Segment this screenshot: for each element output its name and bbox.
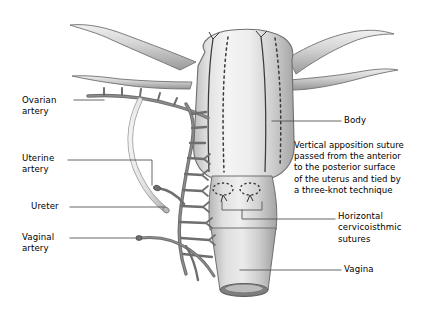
label-ureter: Ureter [31,201,59,212]
label-vagina: Vagina [344,264,374,275]
label-ovarian-artery: Ovarian artery [22,95,56,118]
vaginal-lumen [225,284,263,293]
vaginal-artery-cut-end [136,236,142,241]
vagina-cuff [211,228,276,297]
label-horizontal-cervicoisthmic-sutures: Horizontal cervicoisthmic sutures [338,211,402,245]
uterine-artery-cut-end [153,184,162,191]
label-body: Body [344,115,366,126]
uterus-suture-illustration: Ovarian artery Uterine artery Ureter Vag… [0,0,427,310]
label-uterine-artery: Uterine artery [22,153,54,176]
fallopian-tube-left [70,25,196,70]
vaginal-artery-vessel [136,236,214,280]
ureter-tube [130,100,170,214]
round-ligament-left [72,76,192,89]
label-vaginal-artery: Vaginal artery [22,232,54,255]
fallopian-tube-right [288,30,394,74]
label-vertical-apposition-suture-note: Vertical apposition suture passed from t… [294,140,426,196]
round-ligament-right [290,69,398,90]
